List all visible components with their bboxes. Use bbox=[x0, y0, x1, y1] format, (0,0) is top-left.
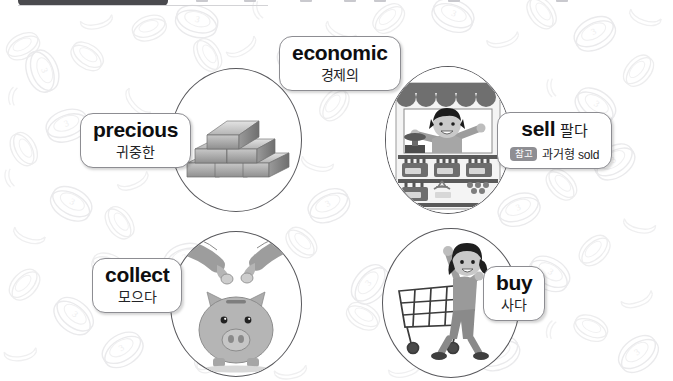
vocab-card-precious[interactable]: precious 귀중한 bbox=[80, 113, 191, 168]
illustration-circle-sell[interactable] bbox=[385, 66, 511, 214]
vocab-note-row-sell: 참고 과거형 sold bbox=[510, 145, 599, 162]
illustration-circle-collect[interactable] bbox=[170, 231, 302, 377]
vocab-card-economic[interactable]: economic 경제의 bbox=[279, 36, 401, 91]
toolbar-icon-2[interactable] bbox=[244, 0, 256, 2]
shop-stall-icon bbox=[386, 67, 510, 213]
vocab-word-economic: economic bbox=[292, 41, 388, 64]
vocab-card-buy[interactable]: buy 사다 bbox=[483, 266, 545, 321]
slide-canvas: 3 bbox=[0, 0, 673, 381]
vocab-translation-sell: 팔다 bbox=[560, 122, 588, 139]
vocab-word-collect: collect bbox=[105, 263, 169, 286]
reference-badge: 참고 bbox=[510, 147, 537, 161]
toolbar-icon-3[interactable] bbox=[300, 0, 312, 2]
piggy-bank-icon bbox=[171, 232, 301, 376]
toolbar-divider bbox=[18, 5, 268, 6]
vocab-word-sell: sell bbox=[521, 117, 555, 140]
toolbar-icon-7[interactable] bbox=[556, 0, 568, 2]
vocab-word-buy: buy bbox=[496, 271, 532, 294]
toolbar-icon-4[interactable] bbox=[344, 0, 356, 2]
vocab-translation-precious: 귀중한 bbox=[93, 141, 178, 161]
toolbar-icon-5[interactable] bbox=[374, 0, 386, 2]
toolbar-icon-1[interactable] bbox=[196, 0, 208, 2]
vocab-translation-collect: 모으다 bbox=[105, 286, 169, 306]
vocab-translation-economic: 경제의 bbox=[292, 64, 388, 84]
vocab-word-precious: precious bbox=[93, 118, 178, 141]
past-tense-note: 과거형 sold bbox=[542, 145, 599, 162]
partial-toolbar bbox=[0, 0, 673, 9]
vocab-translation-buy: 사다 bbox=[496, 294, 532, 314]
vocab-card-sell[interactable]: sell팔다 참고 과거형 sold bbox=[497, 112, 612, 169]
toolbar-icon-6[interactable] bbox=[448, 0, 460, 2]
vocab-card-collect[interactable]: collect 모으다 bbox=[92, 258, 182, 313]
